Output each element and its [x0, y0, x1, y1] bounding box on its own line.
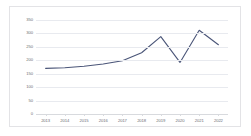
gridline-y-250: 250 — [36, 47, 228, 48]
y-axis-tick-label: 50 — [29, 98, 33, 102]
x-axis-tick-label: 2015 — [80, 119, 89, 123]
x-axis-tick-mark — [180, 114, 181, 116]
x-axis-tick-label: 2018 — [137, 119, 146, 123]
y-axis-tick-label: 200 — [26, 58, 33, 62]
gridline-y-150: 150 — [36, 74, 228, 75]
x-axis-tick-label: 2013 — [41, 119, 50, 123]
y-axis-tick-label: 350 — [26, 18, 33, 22]
x-axis-tick-mark — [218, 114, 219, 116]
x-axis-tick-label: 2017 — [118, 119, 127, 123]
x-axis-tick-mark — [65, 114, 66, 116]
x-axis-tick-label: 2021 — [195, 119, 204, 123]
chart-card: 0501001502002503003502013201420152016201… — [9, 6, 241, 127]
x-axis-tick-label: 2022 — [214, 119, 223, 123]
series-line-path — [46, 30, 219, 68]
y-axis-tick-label: 150 — [26, 72, 33, 76]
y-axis-tick-label: 300 — [26, 31, 33, 35]
x-axis-tick-mark — [142, 114, 143, 116]
y-axis-tick-label: 250 — [26, 45, 33, 49]
y-axis-tick-label: 0 — [31, 112, 33, 116]
x-axis-tick-mark — [46, 114, 47, 116]
x-axis-tick-mark — [103, 114, 104, 116]
x-axis-tick-mark — [199, 114, 200, 116]
x-axis-tick-mark — [161, 114, 162, 116]
gridline-y-200: 200 — [36, 60, 228, 61]
x-axis-tick-label: 2014 — [60, 119, 69, 123]
gridline-y-350: 350 — [36, 20, 228, 21]
chart-plot-area: 0501001502002503003502013201420152016201… — [36, 20, 228, 114]
y-axis-tick-label: 100 — [26, 85, 33, 89]
x-axis-tick-mark — [84, 114, 85, 116]
x-axis-tick-label: 2016 — [99, 119, 108, 123]
gridline-y-100: 100 — [36, 87, 228, 88]
gridline-y-300: 300 — [36, 33, 228, 34]
x-axis-tick-label: 2020 — [176, 119, 185, 123]
x-axis-tick-label: 2019 — [156, 119, 165, 123]
gridline-y-50: 50 — [36, 101, 228, 102]
x-axis-tick-mark — [122, 114, 123, 116]
